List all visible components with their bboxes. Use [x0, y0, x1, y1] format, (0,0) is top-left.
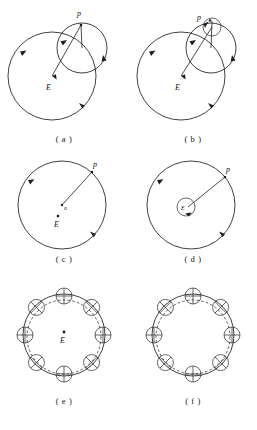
rim-circles	[146, 288, 240, 382]
radius-line-o-p	[62, 172, 92, 205]
rim-circle	[213, 355, 229, 371]
arrowhead-upper-left	[28, 179, 34, 184]
panel-a: p E	[0, 0, 128, 135]
label-o: o	[64, 205, 67, 211]
rim-circle	[56, 288, 72, 304]
panel-c: p o E	[0, 155, 128, 255]
rim-circle	[28, 355, 44, 371]
label-e: E	[180, 205, 185, 211]
rim-circles	[17, 288, 111, 382]
panel-e: E	[0, 282, 128, 394]
caption-a: ( a )	[0, 134, 128, 144]
label-p: p	[225, 165, 230, 174]
caption-b: ( b )	[129, 134, 257, 144]
arrowhead-deferent-upper	[149, 51, 155, 56]
arrowhead-epicycle	[61, 40, 68, 46]
label-p: p	[92, 160, 97, 169]
rim-circle	[84, 355, 100, 371]
caption-d: ( d )	[129, 254, 257, 264]
figure-root: p E ( a ) p E ( b ) p o E ( c )	[0, 0, 257, 430]
rim-circle	[157, 355, 173, 371]
rim-circle	[185, 366, 201, 382]
radius-line-e-p	[52, 25, 81, 76]
rim-circle	[185, 288, 201, 304]
rim-circle	[95, 327, 111, 343]
label-e: E	[45, 83, 51, 92]
point-p-dot	[91, 171, 93, 173]
point-p-dot	[80, 24, 83, 27]
caption-f: ( f )	[129, 396, 257, 406]
arrowhead-epicycle	[190, 40, 197, 46]
rim-circle	[17, 327, 33, 343]
epicycle-radius-line	[211, 21, 212, 48]
center-o-dot	[61, 204, 63, 206]
label-e: E	[59, 336, 65, 345]
radius-line-e-p	[188, 177, 225, 207]
rim-circle	[146, 327, 162, 343]
label-p: p	[196, 13, 201, 22]
panel-d: p E	[129, 155, 257, 255]
panel-f	[129, 282, 257, 394]
arrowhead-deferent-lower	[208, 103, 214, 109]
point-p-dot	[224, 176, 226, 178]
panel-b: p E	[129, 0, 257, 135]
label-e: E	[174, 83, 180, 92]
arrowhead-deferent-upper	[20, 51, 26, 56]
rim-circle	[224, 327, 240, 343]
earth-dot	[57, 215, 60, 218]
arrowhead-upper-left	[157, 179, 163, 184]
earth-dot	[63, 331, 66, 334]
epicycle-radius-line	[81, 25, 82, 48]
point-p-dot	[209, 19, 211, 21]
rim-circle	[56, 366, 72, 382]
caption-e: ( e )	[0, 396, 128, 406]
label-p: p	[76, 9, 81, 18]
arrowhead-deferent-lower	[79, 103, 85, 109]
dashed-circle	[156, 300, 230, 374]
label-e: E	[53, 220, 59, 229]
caption-c: ( c )	[0, 254, 128, 264]
